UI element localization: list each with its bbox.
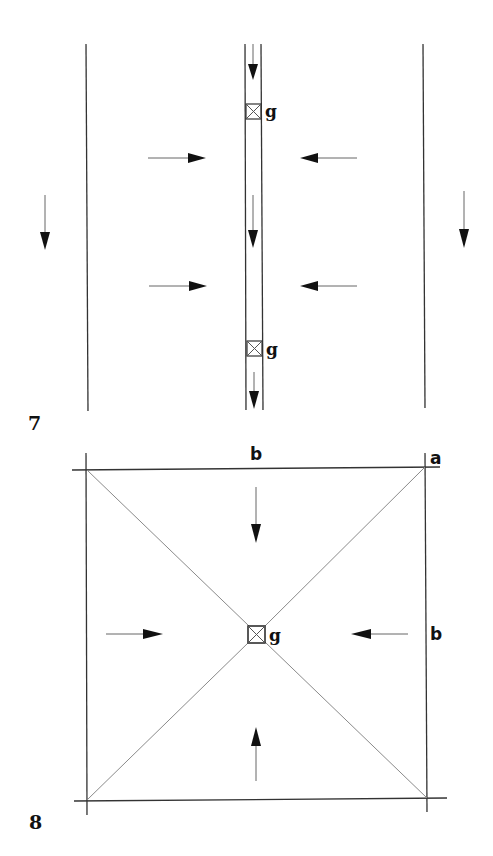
gully-label-center: g [269, 625, 281, 645]
gully-top [246, 104, 261, 119]
side-label-top: b [250, 444, 262, 464]
right-boundary-line [423, 44, 425, 408]
flow-arrow-bottom [251, 727, 261, 781]
lateral-arrow-left-lower [149, 281, 207, 291]
corner-label-a: a [430, 448, 441, 468]
flow-arrow-right [351, 629, 408, 639]
figure-7: g g [28, 44, 469, 434]
square-left-edge [86, 453, 87, 815]
square-top-edge [72, 467, 440, 470]
square-bottom-edge [74, 798, 447, 801]
lateral-arrow-left-upper [148, 153, 206, 163]
gully-label-top: g [265, 101, 277, 121]
lateral-arrow-right-upper [300, 153, 357, 163]
outer-right-down-arrow [459, 191, 469, 248]
channel-arrow-top [248, 44, 258, 80]
channel-left-line [245, 44, 246, 410]
channel-arrow-middle [248, 195, 258, 248]
diagonal-bottom-left [87, 642, 249, 800]
diagonal-top-right [265, 467, 425, 626]
drainage-diagram: g g [0, 0, 493, 856]
figure-8: g b a b 8 [29, 444, 447, 833]
channel-arrow-bottom [249, 372, 259, 409]
outer-left-down-arrow [40, 195, 50, 250]
figure-number-8: 8 [29, 811, 42, 833]
square-right-edge [425, 453, 427, 812]
lateral-arrow-right-lower [300, 281, 357, 291]
side-label-right: b [430, 624, 442, 644]
gully-bottom [247, 341, 262, 356]
diagonal-bottom-right [265, 642, 427, 798]
gully-label-bottom: g [266, 339, 278, 359]
left-boundary-line [86, 44, 88, 411]
gully-center [248, 626, 265, 643]
flow-arrow-top [251, 487, 261, 543]
diagonal-top-left [87, 470, 249, 626]
flow-arrow-left [106, 629, 163, 639]
figure-number-7: 7 [28, 412, 41, 434]
